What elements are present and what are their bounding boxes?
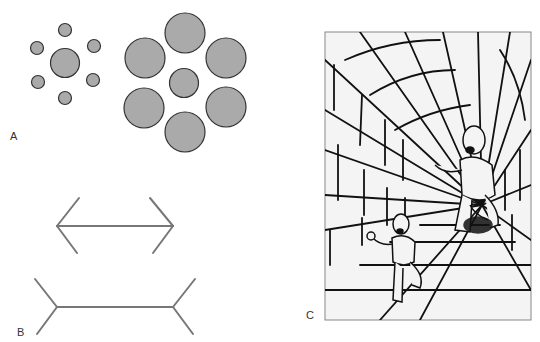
illusions-figure xyxy=(0,0,540,342)
center-circle xyxy=(170,69,199,98)
surround-circle xyxy=(165,112,205,152)
surround-circle xyxy=(88,40,101,53)
surround-circle xyxy=(87,74,100,87)
muller-lyer-outward xyxy=(35,279,195,334)
surround-circle xyxy=(32,76,45,89)
panel-label-b: B xyxy=(17,326,24,338)
surround-circle xyxy=(125,38,165,78)
surround-circle xyxy=(206,38,246,78)
surround-circle xyxy=(59,24,72,37)
surround-circle xyxy=(59,92,72,105)
panel-label-c: C xyxy=(306,309,314,321)
corridor-illustration xyxy=(325,32,531,320)
surround-circle xyxy=(165,13,205,53)
surround-circle xyxy=(206,87,246,127)
ebbinghaus-small-surround xyxy=(31,24,101,105)
ebbinghaus-large-surround xyxy=(124,13,246,152)
center-circle xyxy=(51,49,80,78)
muller-lyer-inward xyxy=(57,198,173,253)
surround-circle xyxy=(31,42,44,55)
surround-circle xyxy=(124,88,164,128)
panel-label-a: A xyxy=(10,130,17,142)
